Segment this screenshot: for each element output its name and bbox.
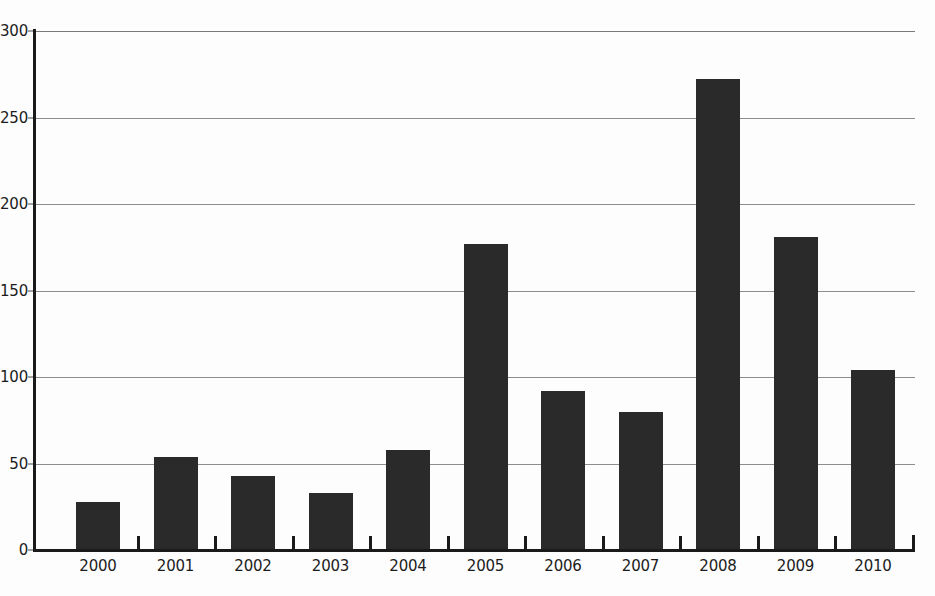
y-axis-tick-label: 300: [0, 24, 28, 39]
x-axis-tick-mark: [524, 536, 527, 550]
x-axis-tick-label: 2003: [296, 559, 366, 574]
bar: [696, 79, 740, 550]
x-axis-end-tick: [912, 535, 915, 551]
y-axis-tick-label: 200: [0, 197, 28, 212]
gridline: [34, 31, 915, 32]
x-axis-tick-mark: [292, 536, 295, 550]
x-axis-tick-label: 2009: [761, 559, 831, 574]
y-axis-tick-label: 100: [0, 370, 28, 385]
y-axis-tick-label: 150: [0, 283, 28, 298]
x-axis-tick-mark: [137, 536, 140, 550]
x-axis-tick-label: 2006: [528, 559, 598, 574]
bar: [541, 391, 585, 550]
bar: [154, 457, 198, 550]
y-axis-tick-label: 0: [0, 543, 28, 558]
bar: [309, 493, 353, 550]
bar: [851, 370, 895, 550]
x-axis-tick-mark: [447, 536, 450, 550]
x-axis-tick-label: 2008: [683, 559, 753, 574]
bar: [464, 244, 508, 550]
y-axis-tick-label: 250: [0, 110, 28, 125]
bar-chart: 050100150200250300 200020012002200320042…: [0, 0, 935, 596]
x-axis-tick-label: 2007: [606, 559, 676, 574]
x-axis-tick-label: 2002: [218, 559, 288, 574]
y-axis-line: [33, 29, 36, 552]
gridline: [34, 118, 915, 119]
x-axis-tick-label: 2000: [63, 559, 133, 574]
x-axis-tick-mark: [834, 536, 837, 550]
x-axis-tick-mark: [214, 536, 217, 550]
x-axis-tick-label: 2004: [373, 559, 443, 574]
plot-area: [34, 31, 915, 550]
bar: [231, 476, 275, 550]
x-axis-tick-label: 2005: [451, 559, 521, 574]
y-axis-tick-label: 50: [0, 456, 28, 471]
bar: [386, 450, 430, 550]
x-axis-tick-mark: [757, 536, 760, 550]
bar: [619, 412, 663, 550]
bar: [76, 502, 120, 550]
bar: [774, 237, 818, 550]
x-axis-line: [33, 549, 915, 552]
x-axis-tick-mark: [369, 536, 372, 550]
x-axis-tick-mark: [602, 536, 605, 550]
gridline: [34, 204, 915, 205]
x-axis-tick-mark: [679, 536, 682, 550]
x-axis-tick-label: 2010: [838, 559, 908, 574]
x-axis-tick-label: 2001: [141, 559, 211, 574]
